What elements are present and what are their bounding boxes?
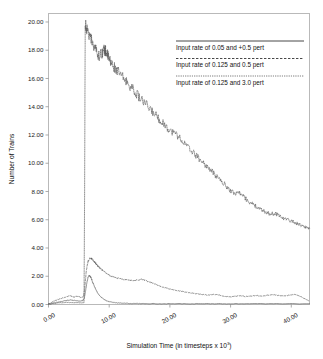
y-tick-label: 18.00	[28, 46, 44, 53]
legend-label-3: Input rate of 0.125 and 3.0 pert	[176, 79, 264, 87]
y-tick-label: 14.00	[28, 103, 44, 110]
y-tick-label: 20.00	[28, 18, 44, 25]
x-axis-title: Simulation Time (in timesteps x 103)	[126, 341, 231, 350]
line-chart: 0.002.004.006.008.0010.0012.0014.0016.00…	[0, 0, 323, 359]
y-tick-label: 16.00	[28, 75, 44, 82]
legend-label-1: Input rate of 0.05 and +0.5 pert	[176, 44, 264, 52]
y-tick-label: 12.00	[28, 131, 44, 138]
y-tick-label: 8.00	[31, 188, 44, 195]
y-tick-label: 10.00	[28, 159, 44, 166]
y-tick-label: 0.00	[31, 301, 44, 308]
chart-figure: 0.002.004.006.008.0010.0012.0014.0016.00…	[0, 0, 323, 359]
y-tick-label: 4.00	[31, 244, 44, 251]
legend-label-2: Input rate of 0.125 and 0.5 pert	[176, 61, 264, 69]
y-tick-label: 6.00	[31, 216, 44, 223]
y-axis-title: Number of Trains	[8, 133, 15, 184]
y-tick-label: 2.00	[31, 272, 44, 279]
